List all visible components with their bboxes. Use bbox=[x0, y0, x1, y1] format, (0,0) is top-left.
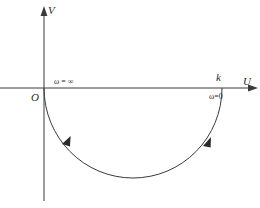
v-axis-label: V bbox=[48, 5, 55, 16]
nyquist-plot-figure: V U O k ω = ∞ ω=0 bbox=[0, 0, 260, 208]
u-axis-label: U bbox=[243, 76, 251, 87]
locus-direction-arrow-left bbox=[62, 136, 71, 147]
v-axis-arrowhead bbox=[41, 6, 48, 16]
frequency-locus-curve bbox=[44, 88, 222, 178]
origin-label: O bbox=[31, 92, 39, 103]
omega-infinity-label: ω = ∞ bbox=[54, 78, 73, 86]
plot-canvas bbox=[0, 0, 260, 208]
omega-zero-label: ω=0 bbox=[209, 93, 223, 101]
k-point-label: k bbox=[216, 72, 221, 83]
